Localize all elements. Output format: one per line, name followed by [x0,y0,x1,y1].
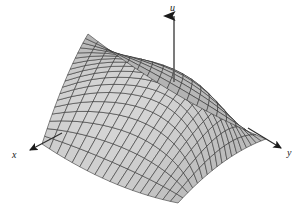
saddle-surface [42,34,266,203]
u-axis-label: u [170,3,175,13]
surface-plot-canvas [0,0,304,216]
x-axis-label: x [12,150,16,160]
y-axis-label: y [287,148,291,158]
surface-plot-figure: u x y [0,0,304,216]
